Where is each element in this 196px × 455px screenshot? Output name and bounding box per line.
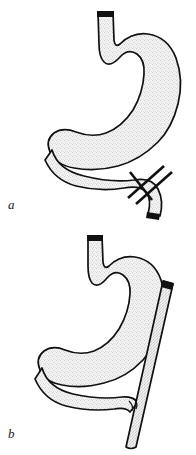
panel-label-b: b [8,427,15,440]
figure-container: Gastric reconstruction schematic [0,0,196,455]
panel-a-esophagus-cut-end [97,11,114,17]
panel-a [45,11,181,220]
surgical-illustration-svg [0,0,196,455]
panel-label-a: a [8,198,15,211]
panel-b-esophagus-cut-end [87,235,103,241]
panel-b [35,235,174,449]
panel-a-stomach-outline [48,12,180,170]
